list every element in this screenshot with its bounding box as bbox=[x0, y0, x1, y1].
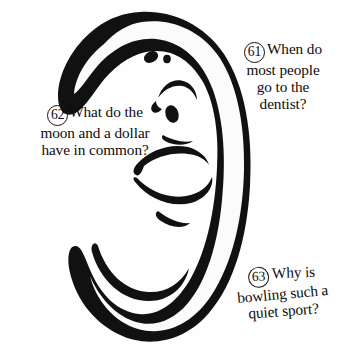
riddle-61-text-2: most people bbox=[219, 61, 347, 78]
riddle-number-62: 62 bbox=[47, 105, 68, 126]
eye-dot-icon bbox=[163, 55, 171, 63]
moon-face bbox=[92, 49, 213, 301]
riddle-61-text-4: dentist? bbox=[219, 95, 347, 112]
riddle-number-61: 61 bbox=[244, 42, 265, 63]
riddle-62-text-1: What do the bbox=[69, 103, 143, 120]
riddle-item-61: 61When do most people go to the dentist? bbox=[219, 40, 347, 112]
riddle-62-line-1: 62What do the bbox=[14, 103, 176, 124]
lower-inner-crescent bbox=[92, 243, 189, 301]
riddle-number-63: 63 bbox=[248, 266, 270, 288]
riddle-61-line-1: 61When do bbox=[219, 40, 347, 61]
riddle-item-62: 62What do the moon and a dollar have in … bbox=[14, 103, 176, 158]
riddle-61-text-3: go to the bbox=[219, 78, 347, 95]
riddle-62-text-2: moon and a dollar bbox=[14, 124, 176, 141]
eyebrow-arc bbox=[158, 80, 197, 100]
riddle-61-text-1: When do bbox=[267, 40, 322, 57]
riddle-62-text-3: have in common? bbox=[14, 141, 176, 158]
mouth-lower-sweep bbox=[133, 177, 212, 204]
riddle-page: 61When do most people go to the dentist?… bbox=[0, 0, 349, 356]
riddle-item-63: 63Why is bowling such a quiet sport? bbox=[218, 260, 348, 322]
riddle-63-text-1: Why is bbox=[272, 263, 316, 282]
chin-stroke bbox=[156, 211, 190, 227]
